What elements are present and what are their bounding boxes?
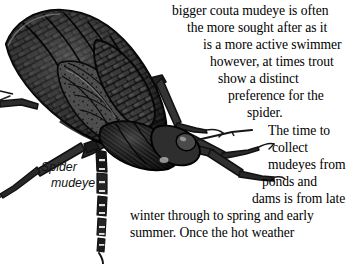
body-line-2: the more sought after as it [187,21,327,35]
body-text-block: prey, particularly, the bigger couta mud… [0,0,361,264]
body-line-9: collect [272,141,308,155]
figure-caption-line-1: Spider [41,160,133,176]
body-line-7: spider. [247,106,283,120]
body-line-6: preference for the [228,89,324,103]
figure-caption-line-2: mudeye [41,176,133,192]
body-line-8: The time to [268,124,330,138]
figure-caption: Spider mudeye [41,160,133,191]
body-line-1: bigger couta mudeye is often [172,4,328,18]
body-line-11: ponds and [262,175,317,189]
body-line-10: mudeyes from [268,158,346,172]
body-line-4: however, at times trout [210,55,334,69]
page-canvas: prey, particularly, the bigger couta mud… [0,0,361,264]
body-line-5: show a distinct [218,72,299,86]
body-line-12: dams is from late [252,192,345,206]
body-line-3: is a more active swimmer [203,38,341,52]
body-line-14: summer. Once the hot weather [130,226,294,240]
body-line-13: winter through to spring and early [130,209,314,223]
